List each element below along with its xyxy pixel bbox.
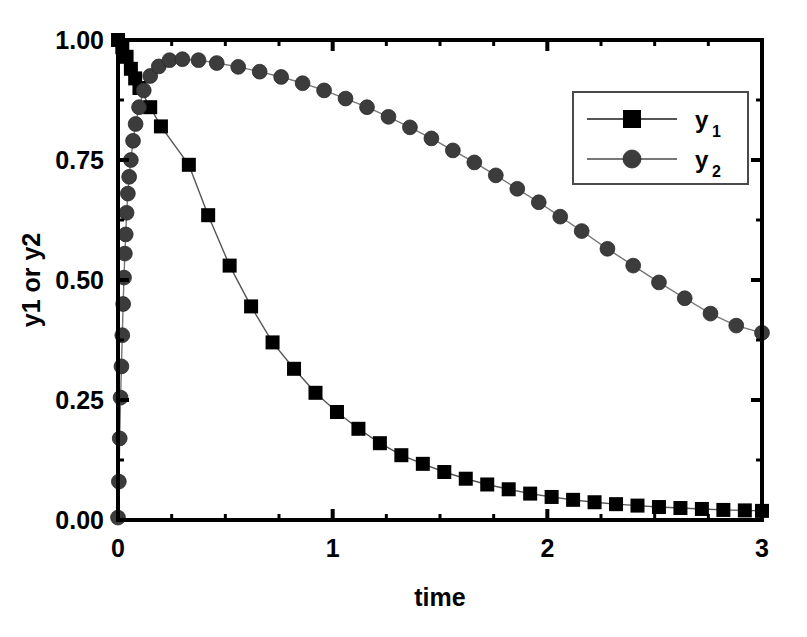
data-point-y2 — [360, 100, 375, 115]
data-point-y1 — [373, 436, 387, 450]
data-point-y2 — [122, 169, 137, 184]
data-point-y2 — [274, 70, 289, 85]
data-point-y1 — [394, 448, 408, 462]
data-point-y1 — [287, 362, 301, 376]
data-point-y2 — [120, 186, 135, 201]
data-point-y2 — [295, 76, 310, 91]
data-point-y2 — [510, 181, 525, 196]
data-point-y2 — [191, 53, 206, 68]
data-point-y1 — [695, 502, 709, 516]
data-point-y2 — [677, 291, 692, 306]
data-point-y1 — [437, 465, 451, 479]
y-tick-label: 1.00 — [55, 26, 104, 54]
legend-marker-y1 — [623, 110, 641, 128]
data-point-y1 — [244, 299, 258, 313]
data-point-y2 — [403, 120, 418, 135]
x-tick-label: 2 — [540, 534, 554, 562]
chart-figure: 0.000.250.500.751.000123timey1 or y2y1y2 — [0, 0, 807, 637]
y-tick-label: 0.50 — [55, 266, 104, 294]
data-point-y1 — [716, 503, 730, 517]
data-point-y2 — [126, 133, 141, 148]
data-point-y2 — [445, 143, 460, 158]
data-point-y2 — [488, 168, 503, 183]
legend-subscript-y2: 2 — [712, 163, 721, 180]
data-point-y1 — [630, 499, 644, 513]
data-point-y2 — [119, 205, 134, 220]
data-point-y2 — [574, 224, 589, 239]
data-point-y2 — [600, 241, 615, 256]
data-point-y1 — [545, 490, 559, 504]
data-point-y2 — [381, 109, 396, 124]
x-axis-title: time — [414, 583, 466, 611]
data-point-y2 — [252, 64, 267, 79]
plot-canvas: 0.000.250.500.751.000123timey1 or y2y1y2 — [0, 0, 807, 637]
data-point-y1 — [154, 119, 168, 133]
data-point-y1 — [330, 405, 344, 419]
data-point-y1 — [609, 497, 623, 511]
data-point-y2 — [338, 91, 353, 106]
data-point-y2 — [209, 56, 224, 71]
x-tick-label: 3 — [755, 534, 769, 562]
data-point-y1 — [266, 335, 280, 349]
data-point-y1 — [588, 495, 602, 509]
data-point-y2 — [317, 83, 332, 98]
data-point-y2 — [136, 83, 151, 98]
data-point-y1 — [502, 482, 516, 496]
data-point-y1 — [120, 50, 134, 64]
data-point-y1 — [223, 259, 237, 273]
data-point-y2 — [113, 390, 128, 405]
legend-label-y1: y — [695, 106, 709, 133]
data-point-y2 — [132, 100, 147, 115]
data-point-y2 — [703, 306, 718, 321]
x-tick-label: 0 — [111, 534, 125, 562]
data-point-y1 — [459, 472, 473, 486]
data-point-y2 — [553, 209, 568, 224]
data-point-y1 — [523, 487, 537, 501]
legend-label-y2: y — [695, 146, 709, 173]
data-point-y1 — [308, 386, 322, 400]
data-point-y2 — [467, 155, 482, 170]
data-point-y2 — [118, 227, 133, 242]
data-point-y2 — [531, 195, 546, 210]
data-point-y1 — [673, 501, 687, 515]
data-point-y1 — [351, 422, 365, 436]
data-point-y2 — [626, 258, 641, 273]
y-tick-label: 0.00 — [55, 506, 104, 534]
x-tick-label: 1 — [326, 534, 340, 562]
data-point-y2 — [424, 131, 439, 146]
legend-box — [573, 92, 748, 184]
data-point-y1 — [652, 500, 666, 514]
data-point-y1 — [416, 457, 430, 471]
y-tick-label: 0.25 — [55, 386, 104, 414]
data-point-y1 — [566, 493, 580, 507]
legend: y1y2 — [573, 92, 748, 184]
data-point-y2 — [231, 59, 246, 74]
data-point-y2 — [729, 318, 744, 333]
data-point-y1 — [182, 158, 196, 172]
data-point-y1 — [201, 208, 215, 222]
data-point-y1 — [738, 503, 752, 517]
legend-marker-y2 — [623, 150, 641, 168]
y-tick-label: 0.75 — [55, 146, 104, 174]
legend-subscript-y1: 1 — [712, 123, 721, 140]
data-point-y2 — [652, 275, 667, 290]
data-point-y1 — [480, 477, 494, 491]
data-point-y2 — [175, 52, 190, 67]
data-point-y2 — [128, 117, 143, 132]
y-axis-title: y1 or y2 — [17, 233, 45, 328]
